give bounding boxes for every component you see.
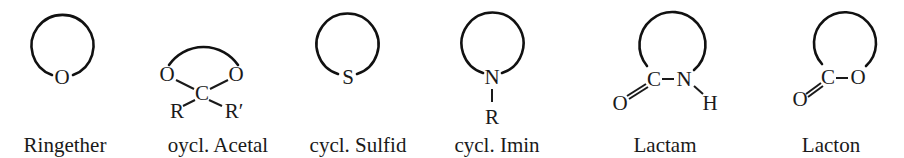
bond-c-r2: [209, 100, 222, 106]
atom-n: N: [676, 67, 691, 91]
atom-c: C: [195, 81, 209, 105]
bond-r-c: [183, 100, 195, 106]
atom-o: O: [54, 65, 69, 89]
atom-o: O: [612, 91, 627, 115]
atom-o-right: O: [228, 62, 243, 86]
label-imin: cycl. Imin: [454, 133, 540, 157]
structure-lacton: C O O Lacton: [792, 12, 876, 157]
structure-lactam: C N H O Lactam: [612, 12, 717, 157]
label-lactam: Lactam: [634, 133, 697, 157]
atom-r-prime: R′: [225, 99, 244, 123]
ring-arc: [462, 12, 524, 73]
ring-arc: [814, 12, 876, 66]
atom-o-carbonyl: O: [792, 87, 807, 111]
atom-n: N: [484, 65, 499, 89]
atom-s: S: [342, 65, 354, 89]
label-acetal: oycl. Acetal: [168, 133, 268, 157]
atom-c: C: [821, 65, 835, 89]
bond-c-o: [210, 80, 228, 89]
structure-ringether: O Ringether: [24, 15, 107, 157]
structure-acetal: O O C R R′ oycl. Acetal: [159, 47, 268, 157]
atom-r: R: [170, 99, 184, 123]
atom-o-ring: O: [850, 65, 865, 89]
label-sulfid: cycl. Sulfid: [310, 133, 407, 157]
structure-sulfid: S cycl. Sulfid: [310, 13, 407, 157]
structure-imin: N R cycl. Imin: [454, 12, 540, 157]
bond-o-c: [176, 80, 194, 89]
atom-c: C: [647, 67, 661, 91]
ring-arc: [639, 12, 705, 70]
atom-r: R: [485, 105, 499, 129]
label-ringether: Ringether: [24, 133, 107, 157]
heterocycle-diagram: O Ringether O O C R R′ oycl. Acetal S cy…: [0, 0, 904, 158]
label-lacton: Lacton: [802, 133, 861, 157]
atom-o-left: O: [159, 62, 174, 86]
atom-h: H: [702, 91, 717, 115]
